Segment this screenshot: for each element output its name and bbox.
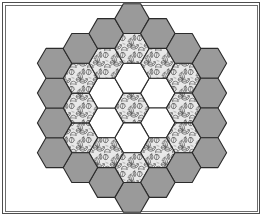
- hexagon-tiling-svg: [0, 0, 264, 218]
- figure-root: [0, 0, 264, 218]
- hexagon-tiling-canvas: [0, 0, 264, 218]
